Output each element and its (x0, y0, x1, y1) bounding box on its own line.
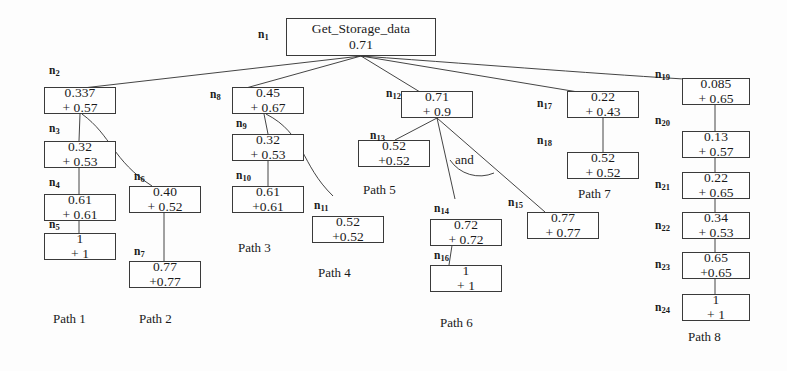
node-label-n7: n7 (134, 245, 145, 257)
node-n11-line1: 0.52 (336, 215, 360, 230)
node-n22-line2: + 0.53 (698, 226, 733, 240)
node-label-n18: n18 (537, 134, 552, 146)
node-n6-line1: 0.40 (153, 185, 177, 200)
node-label-n8: n8 (210, 88, 221, 100)
edge-n1-n8 (246, 56, 361, 88)
node-label-n2: n2 (49, 64, 60, 76)
node-n6-line2: + 0.52 (147, 200, 182, 214)
node-label-n19: n19 (655, 68, 670, 80)
node-n18-line2: + 0.52 (585, 166, 620, 180)
node-n21[interactable]: 0.22 + 0.65 (682, 172, 750, 199)
node-label-n23: n23 (655, 258, 670, 270)
node-n16[interactable]: 1 + 1 (430, 265, 502, 292)
node-n9[interactable]: 0.32 + 0.53 (232, 134, 304, 161)
node-label-n14: n14 (434, 202, 449, 214)
node-n13[interactable]: 0.52 +0.52 (358, 140, 430, 167)
node-n23[interactable]: 0.65 +0.65 (682, 252, 750, 279)
node-n23-line2: +0.65 (700, 266, 732, 280)
node-n3-line2: + 0.53 (62, 155, 97, 169)
node-n1-line2: 0.71 (349, 38, 373, 52)
edge-n12-n15 (437, 118, 545, 212)
node-n8-line1: 0.45 (256, 86, 280, 101)
node-n8[interactable]: 0.45 + 0.67 (232, 87, 304, 114)
node-n5[interactable]: 1 + 1 (44, 233, 116, 260)
node-n18-line1: 0.52 (591, 151, 615, 166)
node-n9-line2: + 0.53 (250, 148, 285, 162)
node-n12-line2: + 0.9 (423, 105, 451, 119)
node-n14-line1: 0.72 (454, 218, 478, 233)
node-label-n9: n9 (236, 117, 247, 129)
node-n20-line1: 0.13 (704, 130, 728, 145)
node-n24-line2: + 1 (707, 308, 725, 322)
node-n21-line2: + 0.65 (698, 186, 733, 200)
node-label-n16: n16 (434, 249, 449, 261)
node-n6[interactable]: 0.40 + 0.52 (129, 186, 201, 213)
node-n19-line2: + 0.65 (698, 92, 733, 106)
node-label-n20: n20 (655, 114, 670, 126)
edge-n12-n13 (395, 118, 437, 140)
node-n2-line1: 0.337 (65, 86, 96, 101)
node-n22[interactable]: 0.34 + 0.53 (682, 212, 750, 239)
node-n24[interactable]: 1 + 1 (682, 294, 750, 321)
node-n11[interactable]: 0.52 +0.52 (312, 216, 384, 243)
node-n7-line2: +0.77 (149, 275, 181, 289)
node-n10[interactable]: 0.61 +0.61 (232, 186, 304, 213)
node-n7-line1: 0.77 (153, 260, 177, 275)
edge-n2-n3 (79, 114, 80, 141)
node-n23-line1: 0.65 (704, 251, 728, 266)
node-n2[interactable]: 0.337 + 0.57 (44, 87, 116, 114)
node-n12[interactable]: 0.71 + 0.9 (401, 91, 473, 118)
path-label-3: Path 3 (238, 240, 271, 256)
node-n11-line2: +0.52 (332, 230, 364, 244)
node-n17-line1: 0.22 (591, 90, 615, 105)
node-label-n4: n4 (49, 176, 60, 188)
node-n18[interactable]: 0.52 + 0.52 (567, 152, 639, 179)
node-n16-line1: 1 (463, 264, 470, 279)
path-label-8: Path 8 (688, 329, 721, 345)
and-annotation: and (455, 152, 474, 168)
path-label-5: Path 5 (363, 182, 396, 198)
node-n4-line2: + 0.61 (62, 208, 97, 222)
node-n14-line2: + 0.72 (448, 233, 483, 247)
node-n24-line1: 1 (713, 293, 720, 308)
diagram-canvas: Get_Storage_data 0.71 n1 0.337 + 0.57 n2… (0, 0, 787, 371)
node-n8-line2: + 0.67 (250, 101, 285, 115)
node-n4-line1: 0.61 (68, 193, 92, 208)
node-label-n13: n13 (370, 129, 385, 141)
node-label-n24: n24 (655, 301, 670, 313)
node-label-n3: n3 (49, 122, 60, 134)
node-label-n12: n12 (386, 87, 401, 99)
node-n1[interactable]: Get_Storage_data 0.71 (286, 18, 436, 56)
node-n13-line2: +0.52 (378, 154, 410, 168)
node-n13-line1: 0.52 (382, 139, 406, 154)
node-n4[interactable]: 0.61 + 0.61 (44, 194, 116, 221)
path-label-7: Path 7 (578, 186, 611, 202)
node-n7[interactable]: 0.77 +0.77 (129, 261, 201, 288)
node-n17[interactable]: 0.22 + 0.43 (567, 91, 639, 118)
node-label-n15: n15 (508, 196, 523, 208)
node-n10-line2: +0.61 (252, 200, 284, 214)
node-n3[interactable]: 0.32 + 0.53 (44, 141, 116, 168)
node-n12-line1: 0.71 (425, 90, 449, 105)
edge-n8-n9 (264, 114, 268, 134)
node-n20[interactable]: 0.13 + 0.57 (682, 131, 750, 158)
node-label-n17: n17 (537, 97, 552, 109)
node-n10-line1: 0.61 (256, 185, 280, 200)
node-n1-line1: Get_Storage_data (312, 22, 410, 37)
node-n15[interactable]: 0.77 + 0.77 (527, 212, 599, 239)
node-label-n1: n1 (258, 28, 269, 40)
node-label-n22: n22 (655, 219, 670, 231)
node-label-n6: n6 (134, 170, 145, 182)
node-n5-line2: + 1 (71, 247, 89, 261)
path-label-2: Path 2 (139, 311, 172, 327)
node-n17-line2: + 0.43 (585, 105, 620, 119)
node-n15-line1: 0.77 (551, 211, 575, 226)
node-label-n21: n21 (655, 178, 670, 190)
node-label-n11: n11 (314, 199, 328, 211)
node-n3-line1: 0.32 (68, 140, 92, 155)
node-n19[interactable]: 0.085 + 0.65 (682, 78, 750, 105)
node-label-n10: n10 (236, 169, 251, 181)
edge-n1-n2 (83, 56, 361, 88)
edge-n1-n19 (361, 56, 700, 80)
node-n14[interactable]: 0.72 + 0.72 (430, 219, 502, 246)
